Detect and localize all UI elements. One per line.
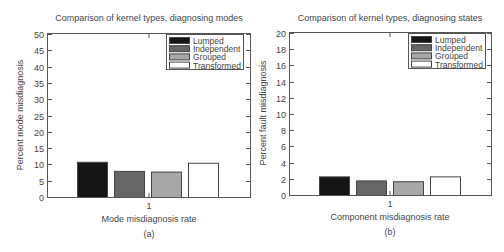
y-tick-label: 12 <box>276 94 286 104</box>
legend-swatch-lumped <box>412 37 432 43</box>
legend-swatch-independent <box>170 46 190 52</box>
bar-transformed <box>189 163 219 197</box>
y-tick-label: 40 <box>34 63 44 73</box>
chart-b-legend: LumpedIndependentGroupedTransformed <box>409 34 486 70</box>
bar-grouped <box>394 182 424 196</box>
chart-b: Comparison of kernel types, diagnosing s… <box>258 13 492 237</box>
y-tick-label: 5 <box>39 177 44 187</box>
y-tick-label: 50 <box>34 30 44 40</box>
legend-swatch-lumped <box>170 38 190 44</box>
y-tick-label: 35 <box>34 79 44 89</box>
legend-swatch-transformed <box>170 62 190 68</box>
y-tick-label: 20 <box>276 29 286 39</box>
chart-a: Comparison of kernel types, diagnosing m… <box>15 13 251 239</box>
y-tick-label: 4 <box>281 159 286 169</box>
chart-a-x-tick-label: 1 <box>146 201 151 211</box>
legend-label-transformed: Transformed <box>435 60 483 70</box>
bar-transformed <box>431 177 461 196</box>
y-tick-label: 2 <box>281 175 286 185</box>
chart-b-title: Comparison of kernel types, diagnosing s… <box>298 13 483 23</box>
y-tick-label: 0 <box>39 193 44 203</box>
legend-label-transformed: Transformed <box>193 61 241 71</box>
chart-b-y-label: Percent fault misdiagnosis <box>258 60 268 166</box>
y-tick-label: 30 <box>34 95 44 105</box>
y-tick-label: 10 <box>34 160 44 170</box>
y-tick-label: 6 <box>281 142 286 152</box>
chart-a-x-label: Mode misdiagnosis rate <box>101 214 196 224</box>
y-tick-label: 10 <box>276 110 286 120</box>
legend-swatch-grouped <box>170 54 190 60</box>
y-tick-label: 25 <box>34 112 44 122</box>
bar-lumped <box>78 162 108 197</box>
y-tick-label: 20 <box>34 128 44 138</box>
y-tick-label: 8 <box>281 126 286 136</box>
bar-grouped <box>152 172 182 197</box>
chart-b-x-label: Component misdiagnosis rate <box>330 212 449 222</box>
y-tick-label: 15 <box>34 144 44 154</box>
legend-swatch-grouped <box>412 53 432 59</box>
legend-swatch-independent <box>412 45 432 51</box>
chart-b-x-tick-label: 1 <box>387 199 392 209</box>
y-tick-label: 18 <box>276 45 286 55</box>
y-tick-label: 0 <box>281 191 286 201</box>
y-tick-label: 16 <box>276 61 286 71</box>
y-tick-label: 14 <box>276 78 286 88</box>
chart-figure: Comparison of kernel types, diagnosing m… <box>0 0 504 252</box>
chart-a-legend: LumpedIndependentGroupedTransformed <box>167 35 244 71</box>
chart-a-y-label: Percent mode misdiagnosis <box>15 59 25 170</box>
chart-a-panel-label: (a) <box>144 229 155 239</box>
chart-a-bars <box>78 162 219 197</box>
chart-b-panel-label: (b) <box>385 227 396 237</box>
bar-lumped <box>320 177 350 196</box>
bar-independent <box>115 171 145 197</box>
y-tick-label: 45 <box>34 46 44 56</box>
chart-a-title: Comparison of kernel types, diagnosing m… <box>55 13 243 23</box>
bar-independent <box>357 181 387 196</box>
legend-swatch-transformed <box>412 61 432 67</box>
